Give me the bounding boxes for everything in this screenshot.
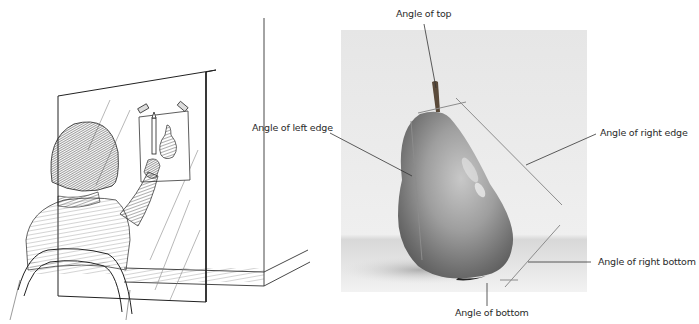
label-angle-of-bottom: Angle of bottom xyxy=(455,307,529,318)
label-angle-of-right-bottom: Angle of right bottom xyxy=(598,256,696,267)
figure: Angle of top Angle of left edge Angle of… xyxy=(0,0,699,324)
label-angle-of-right-edge: Angle of right edge xyxy=(600,127,688,138)
label-angle-of-left-edge: Angle of left edge xyxy=(252,122,333,133)
label-angle-of-top: Angle of top xyxy=(396,8,451,19)
pear-photo xyxy=(0,0,699,324)
